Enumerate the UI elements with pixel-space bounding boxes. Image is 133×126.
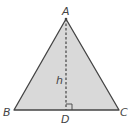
label-d: D — [61, 113, 69, 126]
label-a: A — [61, 5, 70, 18]
triangle-diagram: A B C D h — [0, 0, 133, 126]
label-h: h — [56, 74, 63, 87]
label-c: C — [120, 106, 128, 119]
vertex-a-dot — [65, 18, 68, 21]
label-b: B — [3, 106, 11, 119]
